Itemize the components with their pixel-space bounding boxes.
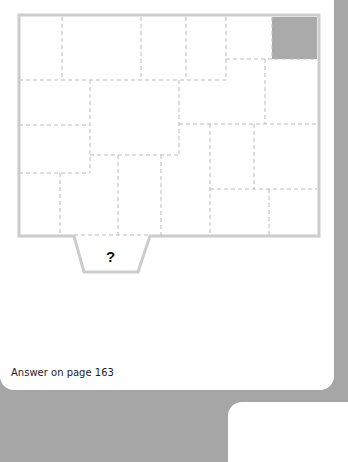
question-mark: ? (106, 248, 115, 265)
page-corner-tab (228, 402, 348, 462)
shaded-cell (272, 17, 317, 59)
answer-reference: Answer on page 163 (11, 367, 114, 378)
puzzle-page: ? Answer on page 163 (0, 0, 334, 390)
room-floorplan-puzzle: ? (0, 0, 334, 300)
